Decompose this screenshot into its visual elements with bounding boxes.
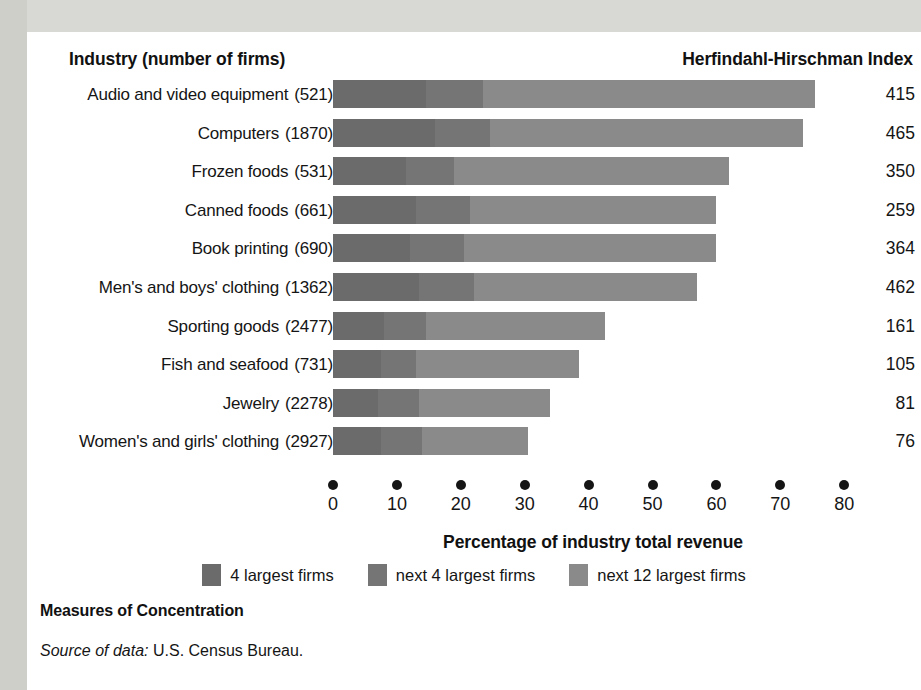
row-label-10: Women's and girls' clothing(2927) [79,432,333,452]
tick-dot-icon [584,480,594,490]
chart-row: Audio and video equipment(521)415 [27,80,921,111]
row-label-9: Jewelry(2278) [223,394,333,414]
bar-segment-1 [333,196,416,224]
bar-segment-3 [474,273,698,301]
firm-count: (521) [294,85,333,104]
hhi-value: 364 [857,238,915,259]
source-label: Source of data: [40,642,149,659]
bar-segment-1 [333,234,410,262]
industry-name: Canned foods [185,201,288,220]
x-axis: 01020304050607080 [27,480,921,526]
bar-segment-3 [426,312,605,340]
bar-segment-1 [333,312,384,340]
bar-segment-1 [333,157,406,185]
chart-row: Frozen foods(531)350 [27,157,921,188]
legend-item-1: 4 largest firms [202,564,334,586]
bar-segment-3 [422,427,527,455]
row-label-7: Sporting goods(2477) [167,317,333,337]
hhi-value: 105 [857,354,915,375]
tick-label: 20 [435,494,487,515]
bar-segment-1 [333,119,435,147]
stacked-bar [333,80,815,108]
bar-segment-2 [416,196,470,224]
bar-segment-1 [333,273,419,301]
bar-segment-3 [419,389,550,417]
bar-segment-2 [419,273,473,301]
industry-name: Jewelry [223,394,279,413]
legend-item-3: next 12 largest firms [569,564,746,586]
bar-segment-2 [435,119,489,147]
bar-segment-1 [333,80,426,108]
industry-name: Fish and seafood [161,355,288,374]
bar-segment-2 [426,80,484,108]
bar-segment-1 [333,389,378,417]
bar-segment-2 [381,427,423,455]
legend-swatch-icon [368,564,387,586]
column-header-industry: Industry (number of firms) [69,49,285,70]
tick-label: 80 [818,494,870,515]
row-label-2: Computers(1870) [198,124,333,144]
tick-label: 50 [627,494,679,515]
hhi-value: 350 [857,161,915,182]
industry-name: Book printing [192,239,289,258]
stacked-bar [333,157,729,185]
firm-count: (731) [294,355,333,374]
bar-segment-3 [490,119,803,147]
chart-row: Fish and seafood(731)105 [27,350,921,381]
bar-segment-3 [483,80,815,108]
legend-label: 4 largest firms [230,566,334,585]
chart-row: Book printing(690)364 [27,234,921,265]
tick-dot-icon [648,480,658,490]
row-label-5: Book printing(690) [192,239,333,259]
hhi-value: 415 [857,84,915,105]
industry-name: Men's and boys' clothing [99,278,279,297]
figure-card: Industry (number of firms) Herfindahl-Hi… [27,32,921,690]
tick-label: 0 [307,494,359,515]
firm-count: (2278) [285,394,333,413]
hhi-value: 465 [857,123,915,144]
firm-count: (531) [294,162,333,181]
firm-count: (1870) [285,124,333,143]
bar-segment-1 [333,350,381,378]
chart-plot-area: Audio and video equipment(521)415Compute… [27,80,921,470]
stacked-bar [333,389,550,417]
stacked-bar [333,427,528,455]
firm-count: (2477) [285,317,333,336]
bar-segment-2 [381,350,416,378]
firm-count: (690) [294,239,333,258]
bar-segment-2 [410,234,464,262]
industry-name: Sporting goods [167,317,279,336]
bar-segment-2 [378,389,420,417]
stacked-bar [333,119,803,147]
industry-name: Audio and video equipment [87,85,288,104]
bar-segment-1 [333,427,381,455]
bar-segment-2 [406,157,454,185]
figure-page: Industry (number of firms) Herfindahl-Hi… [0,0,921,690]
firm-count: (2927) [285,432,333,451]
stacked-bar [333,234,716,262]
page-gutter [0,0,27,690]
tick-label: 30 [499,494,551,515]
tick-dot-icon [711,480,721,490]
bar-segment-3 [454,157,729,185]
row-label-6: Men's and boys' clothing(1362) [99,278,333,298]
bar-segment-3 [464,234,716,262]
tick-dot-icon [456,480,466,490]
chart-row: Jewelry(2278)81 [27,389,921,420]
industry-name: Frozen foods [191,162,288,181]
legend-item-2: next 4 largest firms [368,564,535,586]
tick-label: 10 [371,494,423,515]
row-label-1: Audio and video equipment(521) [87,85,333,105]
stacked-bar [333,196,716,224]
x-axis-title: Percentage of industry total revenue [333,532,853,553]
hhi-value: 161 [857,316,915,337]
bar-segment-3 [416,350,579,378]
legend-swatch-icon [569,564,588,586]
figure-caption: Measures of Concentration [40,602,244,620]
row-label-3: Frozen foods(531) [191,162,333,182]
tick-label: 60 [690,494,742,515]
bar-segment-2 [384,312,426,340]
legend-label: next 12 largest firms [597,566,746,585]
firm-count: (1362) [285,278,333,297]
hhi-value: 259 [857,200,915,221]
